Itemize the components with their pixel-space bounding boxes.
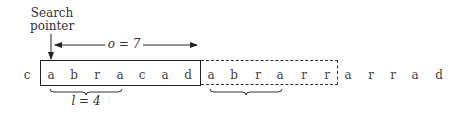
lookahead-char: a <box>204 68 218 82</box>
remaining-char: r <box>364 68 378 82</box>
remaining-char: a <box>408 68 422 82</box>
search-char: a <box>113 68 127 82</box>
remaining-char: r <box>386 68 400 82</box>
lookahead-char: r <box>251 68 265 82</box>
preceding-char: c <box>20 68 34 82</box>
search-char: r <box>90 68 104 82</box>
search-char: a <box>158 68 172 82</box>
lookahead-char: b <box>227 68 241 82</box>
length-label: l = 4 <box>68 95 104 108</box>
lookahead-char: r <box>297 68 311 82</box>
lookahead-char: r <box>320 68 334 82</box>
search-char: b <box>67 68 81 82</box>
remaining-char: a <box>341 68 355 82</box>
search-pointer-label: Search pointer <box>30 7 74 33</box>
search-pointer-label-line2: pointer <box>30 20 74 33</box>
lookahead-brace <box>210 89 282 95</box>
search-char: c <box>135 68 149 82</box>
remaining-char: d <box>432 68 446 82</box>
search-char: d <box>181 68 195 82</box>
lookahead-buffer-box <box>201 60 338 85</box>
offset-label: o = 7 <box>106 38 142 51</box>
lookahead-char: a <box>273 68 287 82</box>
search-char: a <box>44 68 58 82</box>
